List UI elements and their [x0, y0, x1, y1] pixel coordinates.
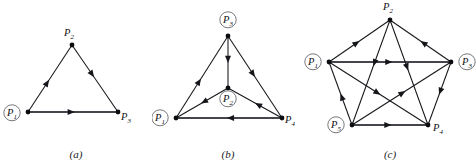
arrowhead-P4-to-P1 — [227, 115, 234, 121]
node-dot-P2 — [226, 86, 231, 91]
edge-P1-to-P2 — [329, 20, 390, 62]
node-dot-P5 — [350, 123, 355, 128]
node-dot-P4 — [280, 116, 285, 121]
node-P1: P1 — [152, 110, 178, 126]
arrowhead-P3-to-P4 — [439, 87, 445, 95]
edge-P1-to-P3 — [329, 59, 451, 65]
node-P2: P2 — [382, 1, 393, 22]
node-dot-P3 — [449, 60, 454, 65]
node-dot-P1 — [174, 116, 179, 121]
arrowhead-P2-to-P3 — [88, 70, 95, 78]
graph-panel-a: P1P2P3(a) — [0, 0, 152, 168]
node-dot-P2 — [70, 43, 75, 48]
graph-panel-c: P2P1P3P5P4(c) — [304, 0, 476, 168]
arrowhead-P2-to-P4 — [403, 63, 409, 71]
panel-caption-a: (a) — [70, 148, 83, 161]
node-label-P4: P4 — [432, 122, 443, 136]
node-P3: P3 — [220, 12, 236, 39]
graph-canvas-b: P3P2P1P4(b) — [152, 0, 304, 168]
node-label-P1: P1 — [154, 112, 165, 126]
node-P3: P3 — [449, 54, 476, 70]
node-label-P3: P3 — [120, 111, 131, 125]
edge-P3-to-P4 — [228, 36, 282, 118]
node-P1: P1 — [4, 105, 31, 121]
edge-P1-to-P4 — [329, 62, 428, 125]
node-P2: P2 — [220, 86, 236, 107]
edge-P3-to-P4 — [428, 62, 451, 125]
edge-P1-to-P3 — [176, 36, 228, 118]
graph-canvas-a: P1P2P3(a) — [0, 0, 152, 168]
arrowhead-P5-to-P4 — [384, 122, 391, 128]
edge-P2-to-P1 — [176, 88, 228, 118]
edge-P2-to-P3 — [72, 45, 118, 112]
arrowhead-P1-to-P2 — [43, 80, 49, 88]
node-P3: P3 — [116, 110, 132, 125]
node-dot-P4 — [426, 123, 431, 128]
node-label-P4: P4 — [284, 114, 295, 128]
node-label-P2: P2 — [382, 1, 393, 15]
edge-P2-to-P5 — [352, 20, 390, 125]
node-dot-P1 — [327, 60, 332, 65]
edge-P4-to-P1 — [176, 115, 282, 121]
node-dot-P3 — [116, 110, 121, 115]
arrowhead-P5-to-P1 — [340, 94, 346, 102]
edge-P5-to-P4 — [352, 122, 428, 128]
node-dot-P1 — [26, 110, 31, 115]
arrowhead-P1-to-P3 — [385, 59, 392, 65]
edge-P5-to-P1 — [329, 62, 352, 125]
edge-P1-to-P2 — [28, 45, 72, 112]
edge-P3-to-P2 — [390, 20, 451, 62]
node-P1: P1 — [305, 54, 332, 70]
arrowhead-P5-to-P3 — [398, 91, 406, 97]
node-label-P1: P1 — [6, 107, 17, 121]
node-label-P2: P2 — [222, 93, 233, 107]
node-label-P3: P3 — [222, 14, 233, 28]
tournament-graphs-figure: P1P2P3(a)P3P2P1P4(b)P2P1P3P5P4(c) — [0, 0, 476, 168]
graph-panel-b: P3P2P1P4(b) — [152, 0, 304, 168]
node-P4: P4 — [426, 122, 444, 136]
node-label-P5: P5 — [330, 119, 341, 133]
edge-P1-to-P3 — [28, 109, 118, 115]
graph-canvas-c: P2P1P3P5P4(c) — [304, 0, 476, 168]
node-P4: P4 — [280, 114, 296, 128]
arrowhead-P3-to-P2 — [225, 56, 231, 63]
arrowhead-P1-to-P3 — [195, 79, 201, 87]
edge-P2-to-P4 — [390, 20, 428, 125]
edge-P3-to-P2 — [225, 36, 231, 88]
node-label-P3: P3 — [461, 56, 472, 70]
edge-P4-to-P2 — [228, 88, 282, 118]
node-label-P2: P2 — [63, 27, 74, 41]
panel-caption-b: (b) — [222, 148, 235, 161]
node-dot-P3 — [226, 34, 231, 39]
panel-caption-c: (c) — [384, 148, 397, 161]
arrowhead-P1-to-P3 — [68, 109, 75, 115]
node-dot-P2 — [388, 18, 393, 23]
arrowhead-P3-to-P4 — [249, 69, 255, 77]
edge-P5-to-P3 — [352, 62, 451, 125]
arrowhead-P3-to-P2 — [421, 41, 429, 48]
arrowhead-P1-to-P2 — [352, 41, 360, 48]
arrowhead-P1-to-P4 — [373, 88, 381, 94]
arrowhead-P2-to-P1 — [201, 97, 209, 103]
node-P2: P2 — [63, 27, 74, 47]
node-label-P1: P1 — [307, 56, 318, 70]
